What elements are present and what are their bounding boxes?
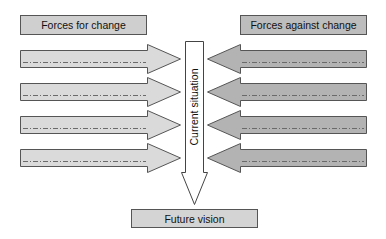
current-situation-arrow: Current situation (182, 42, 208, 205)
force-for-arrow-2 (21, 78, 181, 107)
future-vision-label: Future vision (164, 213, 224, 225)
force-against-arrow-2 (208, 78, 367, 107)
force-for-arrow-3 (21, 111, 181, 140)
header-left-label: Forces for change (41, 19, 126, 31)
force-field-diagram: Forces for change Forces against change (0, 0, 386, 239)
header-forces-for-change: Forces for change (21, 16, 147, 35)
force-for-arrow-1 (21, 45, 181, 74)
future-vision-box: Future vision (132, 210, 258, 228)
header-right-label: Forces against change (250, 19, 356, 31)
current-situation-label: Current situation (188, 68, 200, 145)
force-against-arrow-4 (208, 144, 367, 173)
left-arrows (21, 45, 181, 173)
right-arrows (208, 45, 367, 173)
header-forces-against-change: Forces against change (241, 16, 367, 35)
force-against-arrow-1 (208, 45, 367, 74)
force-for-arrow-4 (21, 144, 181, 173)
force-against-arrow-3 (208, 111, 367, 140)
